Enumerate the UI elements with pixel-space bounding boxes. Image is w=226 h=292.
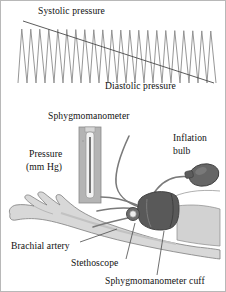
label-sphygmomanometer: Sphygmomanometer — [48, 111, 130, 122]
stethoscope-head-group — [127, 208, 140, 221]
inflation-bulb-group — [184, 161, 220, 189]
column-top-notch — [85, 127, 95, 132]
cuff-group — [138, 192, 179, 230]
mercury-column-group — [79, 127, 101, 203]
upper-arm-highlight — [177, 205, 220, 246]
label-pressure-units: (mm Hg) — [26, 162, 62, 173]
blood-pressure-figure: Systolic pressure Diastolic pressure — [0, 0, 226, 292]
tube-long-curve — [116, 136, 139, 207]
label-pressure: Pressure — [29, 149, 62, 160]
label-inflation: Inflation — [173, 133, 207, 144]
label-sphygmomanometer-cuff: Sphygmomanometer cuff — [105, 276, 205, 287]
leader-cuff — [157, 231, 164, 275]
bulb-valve — [184, 170, 193, 179]
stethoscope-diaphragm-inner — [130, 211, 136, 217]
label-stethoscope: Stethoscope — [71, 258, 118, 269]
label-brachial-artery: Brachial artery — [11, 241, 70, 252]
label-bulb: bulb — [173, 146, 190, 157]
